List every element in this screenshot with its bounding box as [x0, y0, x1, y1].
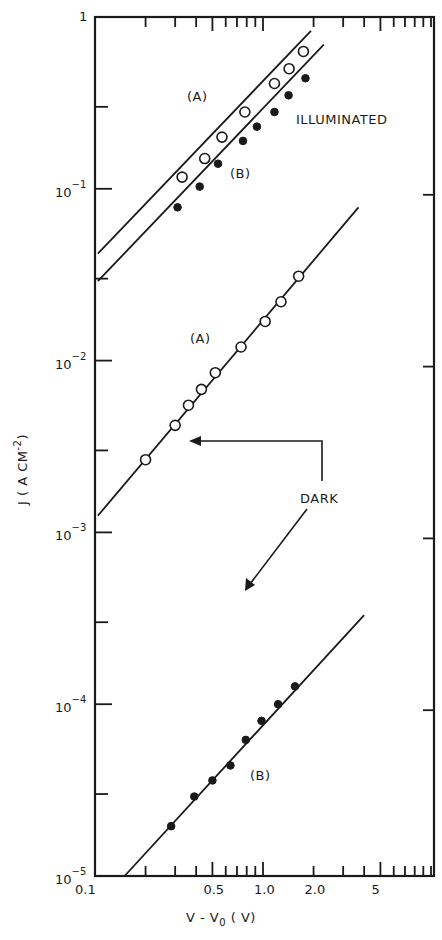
filled-circle-marker [302, 74, 310, 82]
filled-circle-marker [167, 822, 175, 830]
arrow-line [198, 441, 322, 481]
fit-line-3 [125, 615, 365, 876]
open-circle-marker [210, 368, 220, 378]
open-circle-marker [177, 172, 187, 182]
dark-a-label: (A) [190, 331, 211, 346]
filled-circle-marker [291, 683, 299, 691]
x-axis-title: V - V0 ( V) [186, 910, 256, 928]
x-tick-label: 5 [371, 882, 379, 897]
filled-circle-marker [253, 123, 261, 131]
open-circle-marker [183, 400, 193, 410]
illuminated-b-label: (B) [230, 166, 251, 181]
fit-line-2 [98, 207, 359, 515]
data-points [141, 46, 310, 829]
open-circle-marker [200, 154, 210, 164]
filled-circle-marker [209, 777, 217, 785]
open-circle-marker [236, 342, 246, 352]
y-tick-label: 10−1 [55, 179, 86, 200]
dark-arrow-to-curve-b [245, 509, 307, 591]
filled-circle-marker [285, 92, 293, 100]
open-circle-marker [196, 384, 206, 394]
x-tick-label: 0.5 [203, 882, 224, 897]
open-circle-marker [217, 132, 227, 142]
x-tick-label: 1.0 [254, 882, 275, 897]
fit-lines [98, 31, 364, 876]
y-tick-label: 1 [79, 9, 87, 24]
axis-ticks [95, 17, 434, 876]
filled-circle-marker [271, 108, 279, 116]
plot-frame [95, 17, 434, 876]
open-circle-marker [276, 297, 286, 307]
open-circle-marker [260, 316, 270, 326]
y-tick-label: 10−3 [55, 522, 86, 543]
fit-line-0 [98, 31, 311, 254]
y-axis-title: J ( A CM-2) [12, 434, 30, 506]
y-tick-label: 10−4 [55, 694, 86, 715]
filled-circle-marker [239, 137, 247, 145]
filled-circle-marker [196, 183, 204, 191]
filled-circle-marker [190, 793, 198, 801]
fit-line-1 [98, 45, 324, 281]
illuminated-label: ILLUMINATED [296, 112, 388, 127]
filled-circle-marker [258, 717, 266, 725]
x-tick-label: 0.1 [75, 882, 96, 897]
filled-circle-marker [274, 700, 282, 708]
dark-b-label: (B) [250, 768, 271, 783]
open-circle-marker [240, 107, 250, 117]
open-circle-marker [269, 79, 279, 89]
open-circle-marker [294, 271, 304, 281]
filled-circle-marker [227, 762, 235, 770]
open-circle-marker [284, 64, 294, 74]
filled-circle-marker [214, 160, 222, 168]
filled-circle-marker [174, 204, 182, 212]
y-tick-label: 10−2 [55, 351, 86, 372]
open-circle-marker [141, 455, 151, 465]
plot-border [95, 17, 434, 876]
filled-circle-marker [242, 736, 250, 744]
arrow-line [250, 509, 307, 584]
arrowhead-left-icon [189, 436, 201, 446]
open-circle-marker [170, 420, 180, 430]
illuminated-a-label: (A) [187, 89, 208, 104]
axis-tick-labels: 0.10.51.02.05110−110−210−310−410−5 [55, 9, 380, 897]
log-log-chart: 0.10.51.02.05110−110−210−310−410−5 (A) (… [0, 0, 442, 940]
dark-arrow-to-curve-a [189, 436, 322, 481]
dark-label: DARK [300, 491, 338, 506]
open-circle-marker [298, 46, 308, 56]
x-tick-label: 2.0 [305, 882, 326, 897]
